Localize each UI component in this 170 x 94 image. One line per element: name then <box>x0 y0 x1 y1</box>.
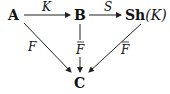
label-Fbar-middle: F <box>75 42 85 57</box>
svg-text:F: F <box>120 43 130 57</box>
label-K: K <box>41 0 52 14</box>
label-Fbar-right: F <box>120 42 130 57</box>
commutative-diagram: A B Sh(K) C K S F F F <box>0 0 170 94</box>
svg-text:F: F <box>75 43 85 57</box>
node-ShK: Sh(K) <box>125 7 167 23</box>
label-S: S <box>104 0 112 14</box>
node-A: A <box>7 7 20 23</box>
node-ShK-bold: Sh <box>125 7 145 23</box>
node-ShK-rest: (K) <box>145 7 166 23</box>
node-B: B <box>74 7 86 23</box>
label-F: F <box>27 40 37 54</box>
arrow-ShK-C <box>89 24 141 72</box>
node-C: C <box>74 75 85 91</box>
